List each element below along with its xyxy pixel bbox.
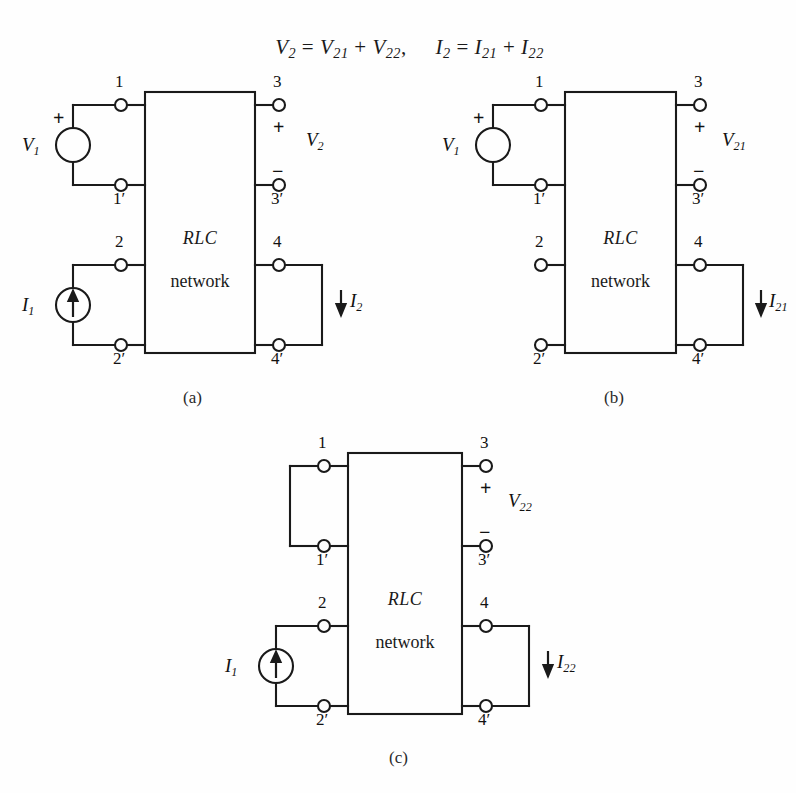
fig-c-terminal-label-3: 3 — [480, 433, 489, 453]
fig-a-terminal-label-1: 1 — [115, 72, 124, 92]
fig-a-box-label-line2: network — [171, 271, 230, 291]
fig-c-caption: (c) — [389, 748, 408, 768]
figure-page: V2 = V21 + V22, I2 = I21 + I22 — [0, 0, 796, 793]
fig-a-terminal-label-2: 2 — [115, 232, 124, 252]
fig-b-terminal-label-1p: 1′ — [533, 189, 545, 209]
fig-b-terminal-label-3: 3 — [694, 72, 703, 92]
fig-a-terminal-label-2p: 2′ — [113, 349, 125, 369]
fig-a-terminal-4 — [273, 259, 285, 271]
fig-c-terminal-1 — [318, 460, 330, 472]
fig-c-terminal-label-3p: 3′ — [478, 550, 490, 570]
fig-b-terminal-label-3p: 3′ — [692, 189, 704, 209]
fig-c-source-label-i1: I1 — [225, 655, 237, 680]
fig-b-source-label-v1: V1 — [442, 134, 460, 159]
fig-a-source-label-v1: V1 — [22, 134, 40, 159]
fig-b-terminal-3 — [694, 99, 706, 111]
fig-b-terminal-1 — [535, 99, 547, 111]
fig-b-terminal-label-2: 2 — [535, 232, 544, 252]
fig-b-terminal-2 — [535, 259, 547, 271]
fig-b-box-label-line1: RLC — [603, 228, 638, 248]
fig-b-terminal-label-2p: 2′ — [533, 349, 545, 369]
fig-b-voltage-source-v1 — [476, 128, 510, 162]
fig-b-box-label-line2: network — [591, 271, 650, 291]
fig-b-output-label-i21: I21 — [769, 290, 787, 315]
fig-c-i22-arrow-head — [544, 665, 553, 676]
fig-a-output-plus-sign: + — [273, 116, 284, 139]
fig-b-i21-arrow-head — [757, 304, 766, 315]
fig-a-terminal-1 — [115, 99, 127, 111]
fig-a-terminal-label-3: 3 — [273, 72, 282, 92]
fig-c-box-label-line2: network — [376, 632, 435, 652]
fig-c-terminal-label-4: 4 — [480, 593, 489, 613]
fig-b-terminal-label-1: 1 — [535, 72, 544, 92]
fig-c-terminal-label-2: 2 — [318, 593, 327, 613]
fig-a-caption: (a) — [183, 388, 202, 408]
fig-c-output-minus-sign: − — [479, 521, 490, 544]
fig-c-terminal-2 — [318, 620, 330, 632]
fig-b-output-minus-sign: − — [693, 160, 704, 183]
fig-a-terminal-label-4: 4 — [273, 232, 282, 252]
fig-c-terminal-label-1: 1 — [318, 433, 327, 453]
fig-a-terminal-3 — [273, 99, 285, 111]
fig-a-output-label-i2: I2 — [350, 290, 362, 315]
fig-c-box-label-line1: RLC — [388, 589, 423, 609]
fig-a-voltage-source-v1 — [56, 128, 90, 162]
fig-a-source-label-i1: I1 — [22, 294, 34, 319]
fig-b-terminal-4 — [694, 259, 706, 271]
fig-a-terminal-label-4p: 4′ — [271, 349, 283, 369]
circuit-artwork — [0, 0, 796, 793]
fig-a-i1-arrow-head — [69, 291, 78, 301]
fig-a-i2-arrow-head — [337, 304, 346, 315]
fig-a-terminal-label-1p: 1′ — [113, 189, 125, 209]
fig-c-output-label-v22: V22 — [508, 490, 532, 515]
fig-b-source-plus-sign: + — [473, 107, 484, 130]
fig-b-terminal-label-4p: 4′ — [692, 349, 704, 369]
fig-a-source-plus-sign: + — [53, 107, 64, 130]
fig-c-terminal-label-4p: 4′ — [478, 710, 490, 730]
fig-c-output-plus-sign: + — [480, 477, 491, 500]
fig-c-terminal-label-1p: 1′ — [316, 550, 328, 570]
fig-b-terminal-label-4: 4 — [694, 232, 703, 252]
fig-c-terminal-label-2p: 2′ — [316, 710, 328, 730]
fig-c-i1-arrow-head — [272, 652, 281, 662]
fig-c-box-label: RLC network — [348, 568, 462, 653]
fig-c-terminal-3 — [480, 460, 492, 472]
fig-a-output-label-v2: V2 — [306, 129, 324, 154]
fig-a-output-minus-sign: − — [272, 160, 283, 183]
fig-a-terminal-label-3p: 3′ — [271, 189, 283, 209]
fig-b-caption: (b) — [604, 388, 624, 408]
fig-b-output-plus-sign: + — [694, 116, 705, 139]
fig-b-box-label: RLC network — [565, 207, 676, 292]
fig-a-terminal-2 — [115, 259, 127, 271]
fig-c-output-label-i22: I22 — [557, 651, 575, 676]
fig-a-box-label: RLC network — [145, 207, 255, 292]
fig-c-terminal-4 — [480, 620, 492, 632]
fig-a-box-label-line1: RLC — [183, 228, 218, 248]
fig-b-output-label-v21: V21 — [722, 129, 746, 154]
